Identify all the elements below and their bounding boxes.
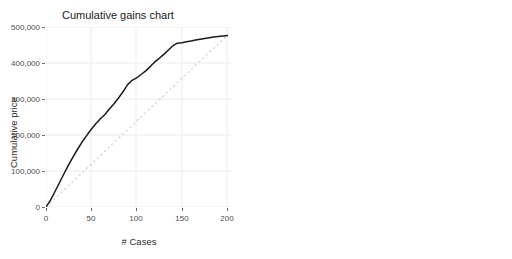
- gains-x-tick-150: 150: [175, 214, 188, 223]
- gains-y-tick-0: 0: [0, 203, 40, 212]
- gains-y-tickmark: [42, 63, 45, 64]
- gains-y-tick-200000: 200,000: [0, 131, 40, 140]
- gains-x-tickmark: [91, 208, 92, 211]
- gains-plot-area: [46, 27, 232, 207]
- gains-y-tickmark: [42, 171, 45, 172]
- gains-x-tickmark: [182, 208, 183, 211]
- gains-plot-svg: [46, 27, 232, 207]
- gains-y-tickmark: [42, 27, 45, 28]
- gains-y-tick-100000: 100,000: [0, 167, 40, 176]
- gains-gridlines: [46, 27, 232, 207]
- gains-x-tickmark: [46, 208, 47, 211]
- gains-y-tickmark: [42, 135, 45, 136]
- gains-y-tick-300000: 300,000: [0, 95, 40, 104]
- gains-y-tickmark: [42, 99, 45, 100]
- gains-chart-title: Cumulative gains chart: [62, 9, 174, 21]
- gains-y-tickmark: [42, 207, 45, 208]
- gains-x-tickmark: [227, 208, 228, 211]
- gains-x-tickmark: [136, 208, 137, 211]
- gains-x-axis-title: # Cases: [46, 236, 232, 247]
- cumulative-gains-chart: Cumulative gains chart Cumulative price …: [0, 0, 256, 259]
- gains-x-tick-50: 50: [87, 214, 96, 223]
- decile-wise-lift-chart: Decile-wise lift chart Decile mean / glo…: [256, 0, 512, 259]
- gains-y-tick-500000: 500,000: [0, 23, 40, 32]
- gains-x-tick-100: 100: [129, 214, 142, 223]
- gains-x-tick-200: 200: [220, 214, 233, 223]
- gains-y-tick-400000: 400,000: [0, 59, 40, 68]
- figure-panel-grid: Cumulative gains chart Cumulative price …: [0, 0, 512, 259]
- gains-x-tick-0: 0: [44, 214, 48, 223]
